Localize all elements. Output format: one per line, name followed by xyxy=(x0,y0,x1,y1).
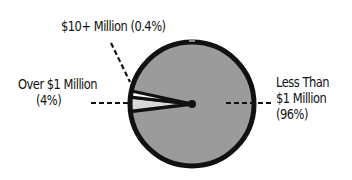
label-over-1-million: Over $1 Million (4%) xyxy=(18,76,97,108)
label-less-than-1-million-line2: $1 Million xyxy=(276,90,329,106)
label-less-than-1-million: Less Than $1 Million (96%) xyxy=(276,74,329,122)
label-10-plus-million-text: $10+ Million (0.4%) xyxy=(61,18,166,34)
pie-center-dot xyxy=(188,100,196,108)
label-less-than-1-million-line3: (96%) xyxy=(276,106,329,122)
label-less-than-1-million-line1: Less Than xyxy=(276,74,329,90)
label-over-1-million-line1: Over $1 Million xyxy=(18,76,97,92)
label-10-plus-million: $10+ Million (0.4%) xyxy=(61,18,166,34)
leader-line-10-plus-million xyxy=(111,43,130,82)
label-over-1-million-line2: (4%) xyxy=(18,92,97,108)
